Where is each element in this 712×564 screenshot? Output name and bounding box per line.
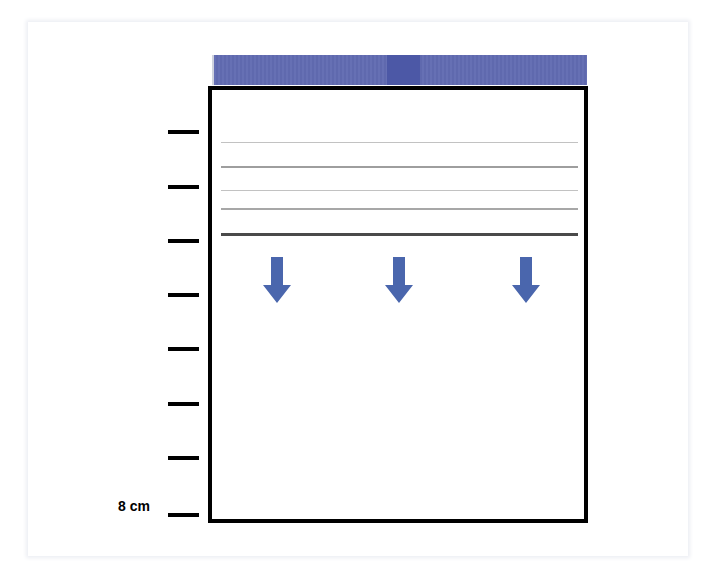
arrow-down-icon [512, 257, 540, 303]
scale-tick [168, 456, 199, 460]
layer-line [221, 233, 578, 236]
scale-tick [168, 185, 199, 189]
scale-bottom-label: 8 cm [118, 498, 150, 514]
layer-line [221, 208, 578, 210]
layer-line [221, 190, 578, 191]
scale-tick [168, 293, 199, 297]
blue-band-dark-stripe [387, 55, 420, 85]
container-box [208, 86, 588, 523]
scale-tick [168, 402, 199, 406]
arrow-down-icon [263, 257, 291, 303]
arrow-down-icon [385, 257, 413, 303]
layer-line [221, 142, 578, 143]
blue-band [212, 55, 587, 85]
scale-tick [168, 130, 199, 134]
scale-tick [168, 347, 199, 351]
scale-tick [168, 239, 199, 243]
scale-tick [168, 513, 199, 517]
layer-line [221, 166, 578, 168]
